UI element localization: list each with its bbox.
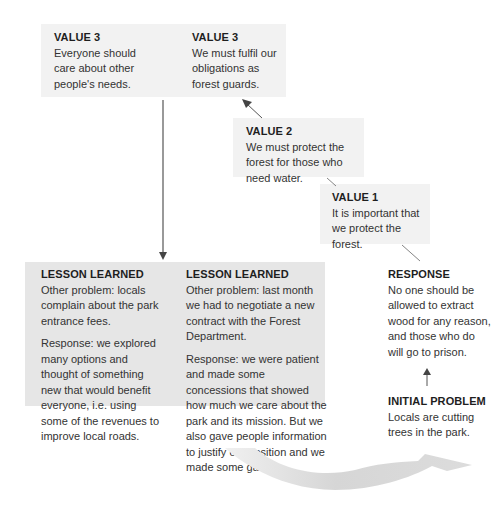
lesson-left-heading: LESSON LEARNED xyxy=(41,267,166,283)
value2-heading: VALUE 2 xyxy=(246,124,366,140)
value3-left: VALUE 3 Everyone should care about other… xyxy=(54,30,149,92)
value3-right-text: We must fulfil our obligations as forest… xyxy=(192,46,287,93)
lesson-left-response: Response: we explored many options and t… xyxy=(41,336,166,445)
value3-left-heading: VALUE 3 xyxy=(54,30,149,46)
value3-right: VALUE 3 We must fulfil our obligations a… xyxy=(192,30,287,92)
initial-problem-text: Locals are cutting trees in the park. xyxy=(388,410,492,441)
initial-problem-heading: INITIAL PROBLEM xyxy=(388,394,492,410)
initial-problem: INITIAL PROBLEM Locals are cutting trees… xyxy=(388,394,492,441)
lesson-left-problem: Other problem: locals complain about the… xyxy=(41,283,166,330)
value1-heading: VALUE 1 xyxy=(332,190,432,206)
lesson-right-heading: LESSON LEARNED xyxy=(186,267,328,283)
value2: VALUE 2 We must protect the forest for t… xyxy=(246,124,366,186)
value1-text: It is important that we protect the fore… xyxy=(332,206,432,253)
value3-right-heading: VALUE 3 xyxy=(192,30,287,46)
response-text: No one should be allowed to extract wood… xyxy=(388,283,492,361)
value1: VALUE 1 It is important that we protect … xyxy=(332,190,432,252)
response-heading: RESPONSE xyxy=(388,267,492,283)
arrow-down-icon xyxy=(159,100,167,260)
lesson-right-response: Response: we were patient and made some … xyxy=(186,352,328,476)
arrow-up-icon xyxy=(423,368,431,386)
value3-left-text: Everyone should care about other people'… xyxy=(54,46,149,93)
lesson-right-problem: Other problem: last month we had to nego… xyxy=(186,283,328,345)
arrow-up-left-icon xyxy=(242,99,262,118)
lesson-left: LESSON LEARNED Other problem: locals com… xyxy=(41,267,166,445)
value2-text: We must protect the forest for those who… xyxy=(246,140,366,187)
response: RESPONSE No one should be allowed to ext… xyxy=(388,267,492,360)
lesson-right: LESSON LEARNED Other problem: last month… xyxy=(186,267,328,476)
